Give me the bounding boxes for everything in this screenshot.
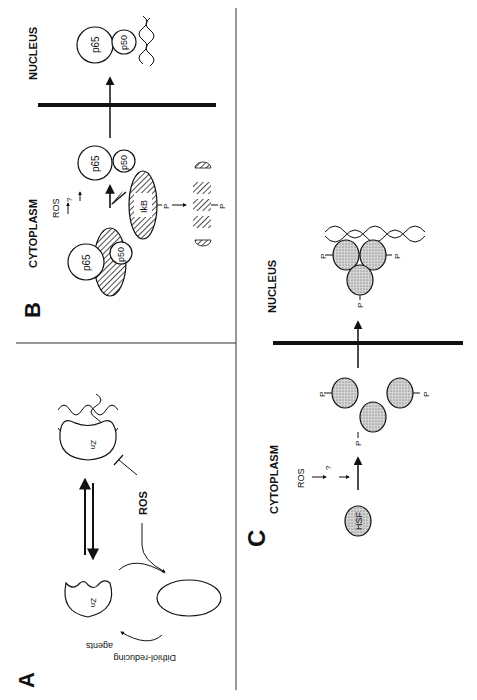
p65-nuclear-label: p65 [90, 36, 101, 53]
panel-c-cytoplasm-label: CYTOPLASM [268, 445, 280, 514]
zn-protein-free: Zn [65, 581, 112, 617]
inactive-nfkb-ikb-complex: p65 p50 [68, 228, 132, 296]
panel-b-ros-label: ROS [51, 198, 61, 218]
trimer-phospho-2: P [318, 392, 327, 397]
panel-b-nucleus-label: NUCLEUS [27, 27, 39, 80]
panel-c: C CYTOPLASM NUCLEUS HSF ROS ? P P P [243, 226, 463, 547]
hsf-monomer: HSF [345, 506, 371, 536]
hsf-trimer-cytoplasm: P P P [318, 378, 431, 446]
ikb-label: IkB [139, 200, 149, 213]
degraded-phospho-label: P [218, 204, 227, 209]
panel-b-label: B [20, 302, 45, 318]
ikb-phospho-label: P [162, 204, 171, 209]
trimer-phospho-3: P [422, 392, 431, 397]
reducing-agents-line2: agents [85, 641, 113, 651]
panel-a-label: A [14, 672, 39, 688]
released-nfkb-dimer: p65 p50 [78, 146, 135, 180]
panel-c-label: C [243, 530, 270, 547]
panel-c-question-mark: ? [324, 465, 333, 470]
oxidized-protein [157, 580, 221, 616]
p50-complex-label: p50 [116, 247, 126, 262]
ikb-protein: IkB [129, 171, 157, 239]
nuclear-phospho-1: P [356, 303, 365, 308]
panel-b-cytoplasm-label: CYTOPLASM [27, 199, 39, 268]
dissociation-arrows [110, 186, 126, 208]
p65-released-label: p65 [90, 155, 101, 172]
reduction-arc-arrow [121, 632, 162, 641]
panel-a: A Zn ROS Zn Dithiol-reducing agents [14, 394, 221, 688]
p50-released-label: p50 [119, 155, 129, 170]
hsf-trimer-nucleus: P P P [319, 226, 425, 308]
nuclear-phospho-2: P [319, 254, 328, 259]
panel-a-ros-label: ROS [137, 491, 149, 515]
figure-canvas: B CYTOPLASM NUCLEUS p65 p50 p65 p50 ROS … [0, 0, 477, 700]
panel-b: B CYTOPLASM NUCLEUS p65 p50 p65 p50 ROS … [20, 16, 227, 318]
trimer-phospho-1: P [354, 441, 363, 446]
hsf-label: HSF [354, 511, 364, 530]
zn-protein-dna-bound: Zn [58, 394, 118, 460]
reducing-agents-line1: Dithiol-reducing [113, 653, 176, 663]
panel-c-ros-label: ROS [296, 468, 306, 488]
dna-helix-c [325, 226, 425, 238]
p50-nuclear-label: p50 [119, 35, 129, 50]
panel-c-nucleus-label: NUCLEUS [266, 260, 278, 313]
p65-complex-label: p65 [81, 254, 92, 271]
nuclear-nfkb-dimer: p65 p50 [77, 16, 154, 66]
degraded-ikb: P [193, 162, 227, 246]
zn-bottom-label: Zn [89, 598, 98, 607]
nuclear-phospho-3: P [393, 254, 402, 259]
zn-top-label: Zn [89, 440, 98, 449]
panel-b-question-mark: ? [65, 197, 74, 202]
